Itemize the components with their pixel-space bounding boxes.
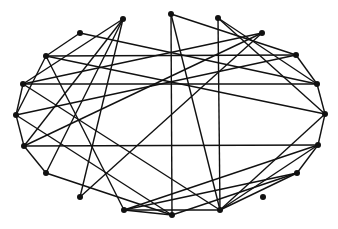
node-n1 <box>120 16 126 22</box>
node-n7 <box>293 52 299 58</box>
node-n11 <box>322 111 328 117</box>
node-n18 <box>121 207 127 213</box>
edge-n11-n20 <box>220 114 325 210</box>
edge-n3-n9 <box>218 18 317 84</box>
edge-n6-n18 <box>46 56 124 210</box>
node-n6 <box>43 53 49 59</box>
node-n19 <box>169 212 175 218</box>
edge-n12-n14 <box>24 146 46 173</box>
node-n13 <box>315 142 321 148</box>
node-n15 <box>294 170 300 176</box>
node-n2 <box>168 11 174 17</box>
node-n10 <box>13 112 19 118</box>
edge-n10-n7 <box>16 55 296 115</box>
graph-edges <box>16 14 325 215</box>
edge-n5-n6 <box>46 33 80 56</box>
node-n4 <box>259 30 265 36</box>
node-n5 <box>77 30 83 36</box>
node-n9 <box>314 81 320 87</box>
node-n20 <box>217 207 223 213</box>
network-graph <box>0 0 338 229</box>
edge-n15-n19 <box>172 173 297 215</box>
node-n17 <box>260 194 266 200</box>
edge-n3-n20 <box>218 18 220 210</box>
edge-n12-n13 <box>24 145 318 146</box>
node-n3 <box>215 15 221 21</box>
node-n8 <box>20 81 26 87</box>
edge-n15-n20 <box>220 173 297 210</box>
edge-n1-n8 <box>23 19 123 84</box>
edge-n4-n12 <box>24 33 262 146</box>
edge-n8-n10 <box>16 84 23 115</box>
node-n12 <box>21 143 27 149</box>
edge-n13-n20 <box>220 145 318 210</box>
edge-n1-n14 <box>46 19 123 173</box>
node-n14 <box>43 170 49 176</box>
node-n16 <box>77 194 83 200</box>
edge-n8-n20 <box>23 84 220 210</box>
